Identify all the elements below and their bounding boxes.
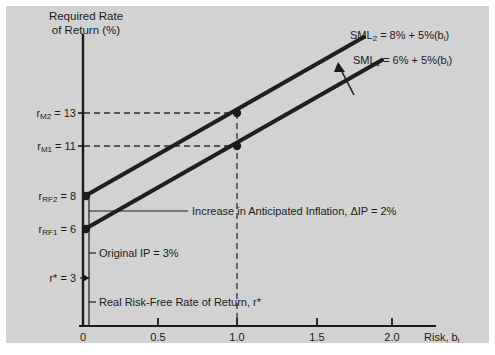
sml2-label-main: SML [350,29,373,41]
marker-rm2 [233,109,241,117]
annotation-inflation-increase: Increase in Anticipated Inflation, ΔIP =… [192,205,396,217]
ytick-label-rrf2: rRF2 = 8 [6,190,76,204]
ytick-label-rrf1: rRF1 = 6 [6,223,76,237]
y-axis-title-line1: Required Rate [20,9,152,23]
xtick-label-15: 1.5 [299,331,335,343]
ytick-label-rstar: r* = 3 [6,272,76,284]
ytick-label-rm2: rM2 = 13 [10,107,76,121]
annotation-real-risk-free: Real Risk-Free Rate of Return, r* [99,296,261,308]
xtick-label-10: 1.0 [219,331,255,343]
dashed-guides [84,113,237,325]
sml2-line [85,37,364,196]
xtick-label-20: 2.0 [374,331,410,343]
y-axis-title-line2: of Return (%) [20,23,152,37]
sml1-label-sub: 1 [376,59,380,68]
ytick-rrf1-eq: = 6 [57,223,76,235]
ytick-rm1-sub: M1 [41,145,52,154]
ytick-rm2-eq: = 13 [51,107,76,119]
ytick-rrf2-sub: RF2 [42,195,57,204]
rstar-pointer-icon [80,274,89,282]
sml1-label-eq: = 6% + 5%(b [380,54,447,66]
x-axis-ticks [158,318,392,326]
sml1-label-end: ) [449,54,453,66]
ytick-rm2-sub: M2 [40,112,51,121]
ytick-rrf2-eq: = 8 [57,190,76,202]
series-label-sml2: SML2 = 8% + 5%(bi) [350,29,449,43]
xtick-label-05: 0.5 [140,331,176,343]
x-axis-title-text: Risk, b [424,331,458,343]
series-label-sml1: SML1 = 6% + 5%(bi) [353,54,452,68]
x-axis-title-sub: i [458,336,460,345]
ytick-rrf1-sub: RF1 [42,228,57,237]
chart-figure: Required Rate of Return (%) rM2 = 13 rM1… [0,0,495,355]
xtick-label-0: 0 [71,331,95,343]
sml1-label-main: SML [353,54,376,66]
ytick-rm1-eq: = 11 [52,140,76,152]
annotation-original-ip: Original IP = 3% [99,247,179,259]
ytick-label-rm1: rM1 = 11 [10,140,76,154]
bracket-original-ip [89,229,96,278]
sml1-label-sub2: i [447,59,449,68]
sml2-label-end: ) [446,29,450,41]
sml2-label-sub2: i [444,34,446,43]
x-axis-title: Risk, bi [424,331,459,345]
sml2-label-eq: = 8% + 5%(b [377,29,444,41]
ytick-rstar-eq: = 3 [57,272,76,284]
y-axis-title: Required Rate of Return (%) [20,9,152,37]
marker-rm1 [233,142,241,150]
bracket-real-risk-free [89,278,96,325]
sml2-label-sub: 2 [373,34,377,43]
